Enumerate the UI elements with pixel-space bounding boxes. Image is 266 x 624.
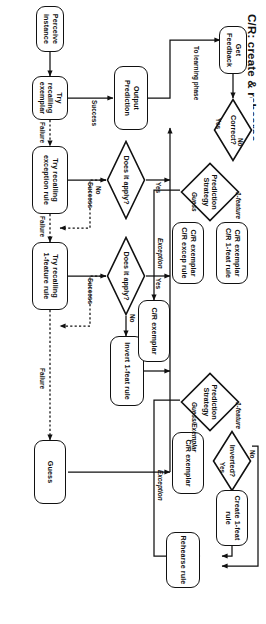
edge-label-success-1feature: Success [87, 278, 94, 304]
edge-label-success-exemplar: Success [91, 100, 98, 126]
node-cr-exemplar-guess: C/R exemplar [172, 432, 204, 494]
node-does-it-apply-1: Does it apply? [106, 140, 146, 220]
edge-label-to-learning-phase: To learning phase [193, 46, 200, 100]
edge-label-no-inverted: No [249, 450, 256, 459]
node-try-recalling-exception-rule: Try recalling exception rule [32, 146, 68, 214]
node-label: Does it apply? [122, 251, 130, 300]
node-try-recalling-1feature-rule: Try recalling 1-feature rule [32, 242, 68, 310]
node-cr-exemplar-exception: C/R exemplar [138, 300, 170, 362]
edge-label-no-correct: No [237, 138, 244, 147]
node-label: Inverted? [228, 445, 236, 477]
node-get-feedback: Get Feedback [219, 26, 247, 74]
node-label: Prediction Strategy [202, 174, 219, 209]
edge-label-guess-incorrect: Guess [191, 192, 198, 212]
edge-label-no-apply-2: No [129, 314, 136, 323]
edge-label-guess-exemplar-correct: Guess/Exemplar [191, 402, 198, 452]
node-guess: Guess [34, 440, 66, 504]
edge-label-success-exception: Success [87, 182, 94, 208]
node-cr-exemplar-excep-rule: C/R exemplar C/R excep rule [172, 222, 204, 284]
edge-label-failure-exemplar: Failure [39, 122, 46, 143]
edge-label-no-apply-1: No [95, 186, 102, 195]
edge-label-exception-correct: Exception [157, 470, 164, 501]
edge-label-failure-exception: Failure [39, 216, 46, 237]
edge-label-1feature-incorrect: 1-feature [235, 192, 242, 219]
node-label: Does it apply? [122, 155, 130, 204]
edge-label-yes-apply-1: Yes [155, 182, 162, 193]
node-label: Prediction Strategy [202, 384, 219, 419]
node-prediction-strategy-incorrect: Prediction Strategy [180, 162, 240, 222]
node-perceive-instance: Perceive instance [36, 6, 64, 52]
edge-label-yes-inverted: Yes [219, 462, 226, 473]
node-output-prediction: Output Prediction [114, 66, 148, 130]
edge-label-exception-incorrect: Exception [157, 238, 164, 269]
edge-label-yes-apply-2: Yes [155, 278, 162, 289]
node-correct: Correct? [213, 98, 253, 162]
edge-label-failure-1feature: Failure [39, 368, 46, 389]
node-create-1feat-rule: Create 1-feat rule [216, 490, 248, 546]
node-rehearse-rule: Rehearse rule [166, 532, 200, 588]
edge-label-yes-correct: Yes [215, 118, 222, 129]
node-try-recalling-exemplar: Try recalling exemplar [32, 76, 68, 120]
edge-label-1feature-correct: 1-feature [235, 402, 242, 429]
figure-canvas: Output Prediction --> Does it apply? 1 -… [0, 0, 266, 624]
node-prediction-strategy-correct: Prediction Strategy [180, 372, 240, 432]
node-inverted: Inverted? [212, 430, 252, 492]
node-label: Correct? [229, 115, 237, 145]
node-cr-exemplar-1feat-rule: C/R exemplar C/R 1-feat rule [216, 222, 248, 284]
